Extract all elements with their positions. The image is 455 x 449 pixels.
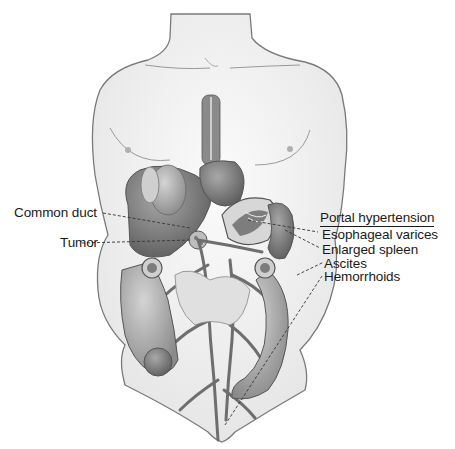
label-portal-hypertension-heading: Portal hypertension xyxy=(320,211,434,227)
anatomical-illustration: Common duct Tumor Portal hypertension Es… xyxy=(0,0,455,449)
label-enlarged-spleen: Enlarged spleen xyxy=(322,243,418,257)
label-tumor: Tumor xyxy=(60,236,98,250)
label-hemorrhoids: Hemorrhoids xyxy=(324,270,400,284)
label-common-duct: Common duct xyxy=(14,206,97,220)
nipple-right xyxy=(287,146,293,152)
label-esophageal-varices: Esophageal varices xyxy=(322,228,438,242)
nipple-left xyxy=(125,147,131,153)
